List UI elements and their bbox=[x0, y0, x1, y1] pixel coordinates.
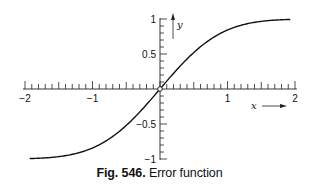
figure-title: Error function bbox=[149, 166, 223, 180]
x-axis-label: x bbox=[251, 100, 257, 111]
figure-label: Fig. 546. bbox=[96, 166, 145, 180]
x-tick-label: −2 bbox=[19, 93, 31, 104]
error-function-chart: −2−112 −1−0.50.51 y x bbox=[0, 0, 319, 165]
y-axis-arrow-icon bbox=[171, 13, 175, 39]
x-tick-label: −1 bbox=[87, 93, 99, 104]
x-tick-label: 1 bbox=[225, 93, 231, 104]
y-tick-label: −1 bbox=[145, 154, 157, 165]
x-axis-arrow-icon bbox=[262, 104, 287, 108]
y-axis-label: y bbox=[176, 19, 183, 30]
x-tick-label: 2 bbox=[292, 93, 298, 104]
origin-marker bbox=[158, 87, 163, 92]
y-arrow-head bbox=[171, 13, 175, 20]
figure-caption: Fig. 546. Error function bbox=[0, 166, 319, 180]
y-tick-label: −0.5 bbox=[136, 119, 156, 130]
y-tick-label: 0.5 bbox=[142, 49, 156, 60]
x-arrow-head bbox=[280, 104, 287, 108]
y-tick-label: 1 bbox=[150, 14, 156, 25]
